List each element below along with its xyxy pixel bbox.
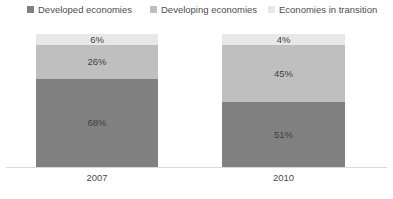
axis-baseline — [6, 167, 387, 168]
category-axis-labels: 2007 2010 — [0, 170, 393, 188]
bar-segment-label: 4% — [277, 34, 291, 45]
bar-segment-developed[interactable]: 51% — [222, 102, 345, 167]
bar-segment-label: 6% — [90, 34, 104, 45]
bar-segment-developing[interactable]: 26% — [36, 45, 158, 79]
bar-segment-label: 51% — [274, 129, 293, 140]
legend-swatch-icon — [150, 6, 157, 13]
legend-item-economies-in-transition[interactable]: Economies in transition — [268, 4, 377, 15]
category-label-2010: 2010 — [222, 172, 345, 184]
bar-column-2010[interactable]: 4% 45% 51% — [222, 34, 345, 167]
chart-legend: Developed economies Developing economies… — [0, 0, 393, 24]
legend-item-label: Developing economies — [161, 4, 257, 15]
legend-item-developing-economies[interactable]: Developing economies — [150, 4, 257, 15]
bar-segment-transition[interactable]: 6% — [36, 34, 158, 45]
bar-segment-label: 45% — [274, 68, 293, 79]
bar-segment-label: 68% — [87, 117, 106, 128]
bar-segment-developed[interactable]: 68% — [36, 79, 158, 167]
legend-item-label: Developed economies — [38, 4, 132, 15]
bar-column-2007[interactable]: 6% 26% 68% — [36, 34, 158, 167]
category-label-2007: 2007 — [36, 172, 158, 184]
bar-segment-label: 26% — [87, 56, 106, 67]
legend-item-label: Economies in transition — [279, 4, 377, 15]
legend-swatch-icon — [268, 6, 275, 13]
bar-segment-developing[interactable]: 45% — [222, 45, 345, 102]
bar-segment-transition[interactable]: 4% — [222, 34, 345, 45]
legend-swatch-icon — [27, 6, 34, 13]
plot-area: 6% 26% 68% 4% 45% 51% — [0, 24, 393, 168]
legend-item-developed-economies[interactable]: Developed economies — [27, 4, 132, 15]
stacked-bar-chart: Developed economies Developing economies… — [0, 0, 393, 199]
